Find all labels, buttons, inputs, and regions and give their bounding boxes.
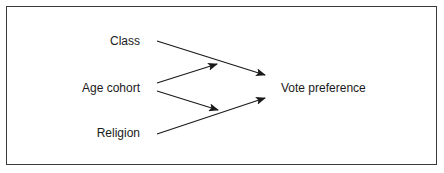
arrows-layer <box>0 0 444 173</box>
arrow-class-to-vote <box>157 41 265 75</box>
arrow-age-cohort-upper <box>157 64 217 83</box>
arrow-religion-to-vote <box>157 98 265 134</box>
arrow-age-cohort-lower <box>157 91 218 110</box>
